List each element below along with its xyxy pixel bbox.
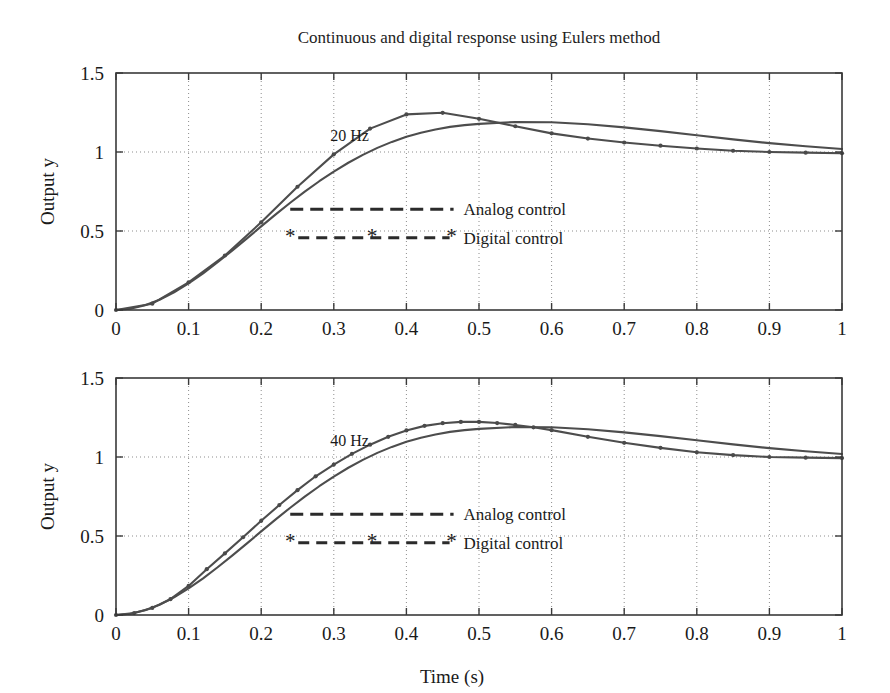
data-point-marker	[767, 455, 771, 459]
data-point-marker	[332, 462, 336, 466]
data-point-marker	[586, 136, 590, 140]
figure-container: Continuous and digital response using Eu…	[0, 0, 890, 693]
data-point-marker	[731, 453, 735, 457]
data-point-marker	[695, 450, 699, 454]
x-tick-label: 0.4	[395, 623, 419, 644]
x-tick-label: 0.8	[685, 623, 709, 644]
data-point-marker	[658, 144, 662, 148]
data-point-marker	[241, 535, 245, 539]
data-point-marker	[495, 421, 499, 425]
data-point-marker	[477, 420, 481, 424]
data-point-marker	[350, 452, 354, 456]
x-tick-label: 0.3	[322, 623, 346, 644]
data-point-marker	[622, 441, 626, 445]
data-point-marker	[658, 446, 662, 450]
data-point-marker	[187, 280, 191, 284]
data-point-marker	[804, 151, 808, 155]
legend-star-marker: *	[367, 224, 378, 248]
y-tick-label: 0	[95, 300, 105, 321]
data-point-marker	[404, 428, 408, 432]
data-point-marker	[386, 435, 390, 439]
x-tick-label: 0.6	[540, 623, 564, 644]
x-tick-label: 0.4	[395, 318, 419, 339]
legend-star-marker: *	[285, 224, 296, 248]
data-point-marker	[259, 220, 263, 224]
x-tick-label: 0	[111, 623, 121, 644]
y-axis-label: Output y	[37, 157, 58, 225]
data-point-marker	[205, 567, 209, 571]
data-point-marker	[550, 428, 554, 432]
y-tick-label: 1.5	[80, 368, 104, 389]
data-point-marker	[223, 551, 227, 555]
data-point-marker	[314, 474, 318, 478]
data-point-marker	[295, 185, 299, 189]
data-point-marker	[150, 302, 154, 306]
y-tick-label: 0.5	[80, 221, 104, 242]
legend-label-digital: Digital control	[464, 534, 564, 553]
x-tick-label: 0.2	[249, 623, 273, 644]
panel-frequency-annotation: 20 Hz	[330, 127, 369, 144]
x-tick-label: 0.8	[685, 318, 709, 339]
data-point-marker	[767, 150, 771, 154]
panel-frequency-annotation: 40 Hz	[330, 432, 369, 449]
x-tick-label: 0	[111, 318, 121, 339]
legend-label-digital: Digital control	[464, 229, 564, 248]
x-tick-label: 0.9	[758, 623, 782, 644]
legend-label-analog: Analog control	[464, 505, 567, 524]
legend-star-marker: *	[367, 529, 378, 553]
data-point-marker	[695, 146, 699, 150]
chart-svg: Continuous and digital response using Eu…	[0, 0, 890, 693]
x-tick-label: 0.9	[758, 318, 782, 339]
data-point-marker	[259, 519, 263, 523]
y-tick-label: 1	[95, 142, 105, 163]
data-point-marker	[441, 111, 445, 115]
legend-star-marker: *	[446, 529, 457, 553]
chart-title: Continuous and digital response using Eu…	[298, 28, 661, 47]
data-point-marker	[731, 149, 735, 153]
data-point-marker	[404, 112, 408, 116]
x-tick-label: 0.7	[612, 318, 636, 339]
data-point-marker	[422, 424, 426, 428]
x-tick-label: 0.6	[540, 318, 564, 339]
x-tick-label: 0.2	[249, 318, 273, 339]
data-point-marker	[441, 421, 445, 425]
data-point-marker	[187, 584, 191, 588]
data-point-marker	[531, 425, 535, 429]
x-tick-label: 0.1	[177, 318, 201, 339]
x-tick-label: 1	[837, 318, 847, 339]
data-point-marker	[459, 420, 463, 424]
data-point-marker	[223, 253, 227, 257]
legend-star-marker: *	[285, 529, 296, 553]
data-point-marker	[513, 124, 517, 128]
x-tick-label: 1	[837, 623, 847, 644]
y-tick-label: 0	[95, 605, 105, 626]
x-axis-label: Time (s)	[420, 666, 484, 688]
x-tick-label: 0.5	[467, 318, 491, 339]
x-tick-label: 0.5	[467, 623, 491, 644]
legend-label-analog: Analog control	[464, 200, 567, 219]
data-point-marker	[332, 152, 336, 156]
y-tick-label: 1.5	[80, 63, 104, 84]
data-point-marker	[586, 435, 590, 439]
y-tick-label: 1	[95, 447, 105, 468]
data-point-marker	[804, 456, 808, 460]
data-point-marker	[477, 117, 481, 121]
data-point-marker	[622, 140, 626, 144]
legend-star-marker: *	[446, 224, 457, 248]
x-tick-label: 0.1	[177, 623, 201, 644]
figure-background	[0, 0, 890, 693]
data-point-marker	[277, 503, 281, 507]
y-tick-label: 0.5	[80, 526, 104, 547]
data-point-marker	[550, 131, 554, 135]
x-tick-label: 0.3	[322, 318, 346, 339]
data-point-marker	[168, 597, 172, 601]
x-tick-label: 0.7	[612, 623, 636, 644]
data-point-marker	[295, 488, 299, 492]
data-point-marker	[150, 606, 154, 610]
data-point-marker	[513, 423, 517, 427]
y-axis-label: Output y	[37, 462, 58, 530]
